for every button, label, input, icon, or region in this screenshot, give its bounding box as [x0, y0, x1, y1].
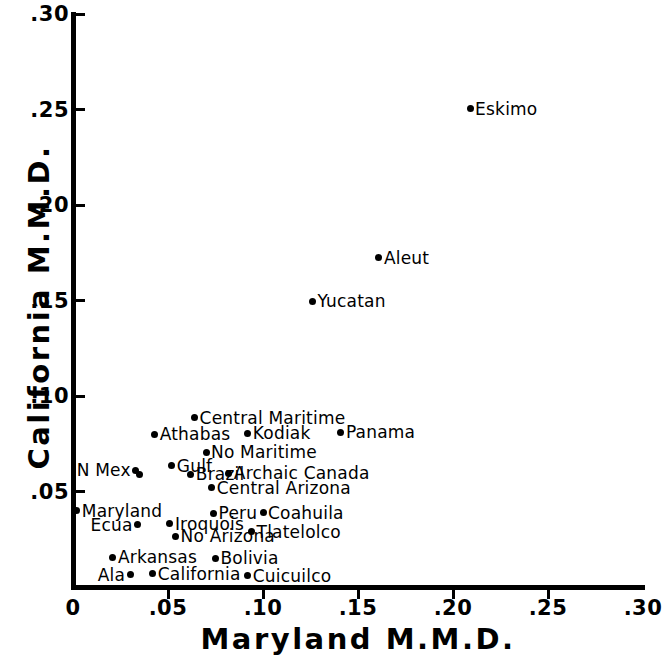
data-point: [244, 430, 251, 437]
data-point-label: Eskimo: [475, 100, 537, 117]
data-point-label: Central Arizona: [217, 479, 351, 496]
data-point-label: Kodiak: [253, 425, 311, 442]
data-point: [166, 520, 173, 527]
data-point: [309, 298, 316, 305]
data-point-label: Yucatan: [317, 293, 385, 310]
data-point: [172, 533, 179, 540]
data-point: [151, 431, 158, 438]
data-point-label: Athabas: [160, 426, 231, 443]
data-point: [136, 471, 143, 478]
data-point-label: Cuicuilco: [253, 567, 331, 584]
data-point: [187, 471, 194, 478]
data-point: [375, 254, 382, 261]
data-point: [260, 509, 267, 516]
data-point-label: California: [158, 565, 241, 582]
data-point: [109, 554, 116, 561]
data-point-label: Aleut: [384, 249, 429, 266]
data-point: [168, 462, 175, 469]
data-point-label: Coahuila: [268, 504, 344, 521]
data-point: [208, 484, 215, 491]
data-point: [467, 105, 474, 112]
data-point: [127, 571, 134, 578]
data-point: [212, 555, 219, 562]
data-point: [134, 521, 141, 528]
data-point: [73, 507, 80, 514]
data-point: [149, 570, 156, 577]
data-point-label: No Arizona: [181, 528, 275, 545]
data-point-label: No Maritime: [211, 444, 317, 461]
data-point: [337, 429, 344, 436]
data-point-label: N Mex: [77, 462, 131, 479]
data-point: [244, 572, 251, 579]
data-point-label: Panama: [346, 424, 415, 441]
data-point: [191, 414, 198, 421]
data-point-label: Ala: [98, 566, 125, 583]
data-point-label: Ecua: [91, 516, 133, 533]
